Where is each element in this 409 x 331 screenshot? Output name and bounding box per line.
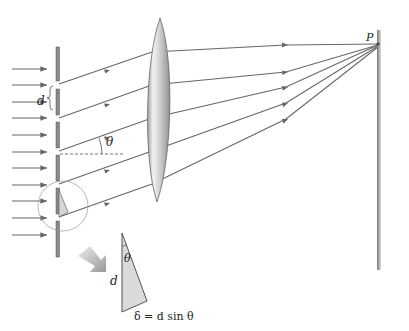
- ray-direction-markers: [104, 43, 288, 207]
- angle-label: θ: [106, 135, 114, 149]
- diffraction-diagram: d θ P θ d δ = d sin θ: [0, 0, 409, 331]
- inset-triangle: [122, 233, 147, 312]
- viewing-screen: [377, 30, 381, 270]
- inset-angle-label: θ: [124, 252, 131, 265]
- diffraction-grating: [56, 47, 60, 257]
- point-p-label: P: [365, 31, 374, 44]
- angle-arc: [99, 138, 102, 154]
- zoom-arrow: [78, 246, 106, 272]
- converging-lens: [148, 18, 170, 202]
- spacing-label: d: [37, 94, 45, 108]
- spacing-brace: [47, 86, 53, 110]
- path-difference-label: δ = d sin θ: [134, 310, 194, 323]
- point-p-dot: [376, 42, 379, 45]
- path-difference-triangle: [59, 190, 68, 217]
- inset-spacing-label: d: [110, 274, 118, 288]
